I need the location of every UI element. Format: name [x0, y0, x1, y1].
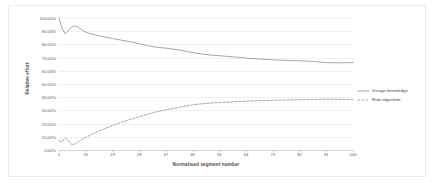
x-axis-tick-label: 64 [244, 152, 249, 157]
y-axis-tick-label: 100.00% [29, 16, 56, 21]
y-axis-tick-label: 80.00% [29, 42, 56, 47]
y-axis-tick-label: 70.00% [29, 55, 56, 60]
y-axis-tick-label: 10.00% [29, 134, 56, 139]
x-axis-tick-label: 100 [350, 152, 357, 157]
legend-item-label: Design knowledge [372, 88, 408, 93]
y-axis-tick-label: 0.00% [29, 148, 56, 153]
x-axis-tick-label: 55 [217, 152, 222, 157]
x-axis-tick-label: 19 [110, 152, 115, 157]
x-axis-tick-label: 10 [83, 152, 88, 157]
y-axis-tick-label: 90.00% [29, 29, 56, 34]
legend-line-swatch [357, 88, 370, 94]
legend-item-label: Rule algorithm [372, 97, 400, 102]
series-line-1 [59, 18, 353, 63]
x-axis-tick-label: 37 [164, 152, 169, 157]
x-axis-tick-label: 91 [324, 152, 329, 157]
series-lines [59, 18, 353, 150]
y-axis-tick-labels: 0.00%10.00%20.00%30.00%40.00%50.00%60.00… [29, 18, 56, 150]
x-axis-line [59, 150, 353, 151]
x-axis-tick-labels: 110192837465564738291100 [59, 152, 353, 162]
series-line-2 [59, 99, 353, 145]
chart-legend: Design knowledgeRule algorithm [357, 86, 425, 104]
x-axis-tick-label: 73 [270, 152, 275, 157]
y-axis-tick-label: 30.00% [29, 108, 56, 113]
x-axis-tick-label: 82 [297, 152, 302, 157]
plot-area [59, 18, 353, 150]
plot-wrapper: Relative effort 0.00%10.00%20.00%30.00%4… [9, 6, 427, 178]
x-axis-tick-label: 1 [58, 152, 60, 157]
y-axis-tick-label: 60.00% [29, 68, 56, 73]
x-axis-title: Normalised segment number [59, 162, 353, 167]
y-axis-tick-label: 50.00% [29, 82, 56, 87]
chart-container: Relative effort 0.00%10.00%20.00%30.00%4… [8, 5, 426, 177]
legend-item[interactable]: Rule algorithm [357, 95, 425, 104]
legend-item[interactable]: Design knowledge [357, 86, 425, 95]
legend-line-swatch [357, 97, 370, 103]
x-axis-tick-label: 46 [190, 152, 195, 157]
y-axis-tick-label: 20.00% [29, 121, 56, 126]
x-axis-tick-label: 28 [137, 152, 142, 157]
y-axis-tick-label: 40.00% [29, 95, 56, 100]
